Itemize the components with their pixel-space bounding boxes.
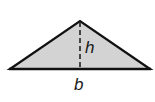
height-label: h bbox=[85, 39, 94, 56]
base-label: b bbox=[74, 76, 83, 93]
triangle-shape bbox=[10, 21, 150, 69]
